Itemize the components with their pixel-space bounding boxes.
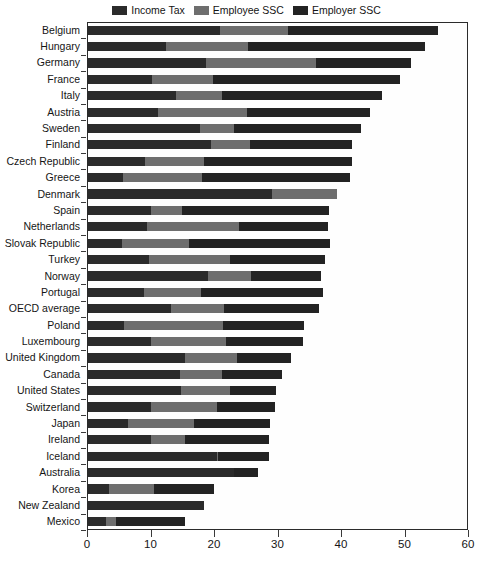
bar-segment[interactable] [87, 124, 200, 133]
bar-segment[interactable] [87, 337, 151, 346]
bar-segment[interactable] [87, 386, 181, 395]
stacked-bar[interactable] [87, 222, 328, 231]
bar-segment[interactable] [123, 173, 202, 182]
stacked-bar[interactable] [87, 484, 214, 493]
bar-segment[interactable] [211, 140, 250, 149]
bar-segment[interactable] [180, 370, 222, 379]
bar-segment[interactable] [316, 58, 411, 67]
bar-segment[interactable] [176, 91, 222, 100]
bar-segment[interactable] [87, 140, 211, 149]
bar-segment[interactable] [206, 58, 316, 67]
bar-segment[interactable] [87, 452, 217, 461]
bar-segment[interactable] [152, 75, 213, 84]
stacked-bar[interactable] [87, 452, 269, 461]
bar-segment[interactable] [124, 321, 222, 330]
bar-segment[interactable] [250, 140, 352, 149]
bar-segment[interactable] [87, 189, 272, 198]
stacked-bar[interactable] [87, 321, 304, 330]
bar-segment[interactable] [87, 468, 234, 477]
bar-segment[interactable] [166, 42, 247, 51]
bar-segment[interactable] [200, 124, 234, 133]
stacked-bar[interactable] [87, 288, 323, 297]
bar-segment[interactable] [181, 386, 230, 395]
bar-segment[interactable] [202, 173, 350, 182]
bar-segment[interactable] [237, 353, 291, 362]
bar-segment[interactable] [220, 26, 288, 35]
bar-segment[interactable] [87, 222, 147, 231]
stacked-bar[interactable] [87, 517, 185, 526]
bar-segment[interactable] [87, 75, 152, 84]
bar-segment[interactable] [87, 517, 106, 526]
bar-segment[interactable] [217, 402, 275, 411]
bar-segment[interactable] [189, 239, 329, 248]
bar-segment[interactable] [87, 435, 151, 444]
bar-segment[interactable] [234, 124, 361, 133]
stacked-bar[interactable] [87, 337, 303, 346]
bar-segment[interactable] [222, 370, 282, 379]
stacked-bar[interactable] [87, 435, 269, 444]
bar-segment[interactable] [218, 452, 269, 461]
bar-segment[interactable] [224, 304, 319, 313]
bar-segment[interactable] [151, 206, 182, 215]
bar-segment[interactable] [154, 484, 214, 493]
bar-segment[interactable] [87, 58, 206, 67]
stacked-bar[interactable] [87, 468, 258, 477]
bar-segment[interactable] [87, 239, 122, 248]
bar-segment[interactable] [230, 255, 325, 264]
bar-segment[interactable] [144, 288, 201, 297]
stacked-bar[interactable] [87, 419, 270, 428]
bar-segment[interactable] [251, 271, 321, 280]
bar-segment[interactable] [87, 108, 158, 117]
stacked-bar[interactable] [87, 386, 276, 395]
stacked-bar[interactable] [87, 189, 337, 198]
bar-segment[interactable] [87, 484, 109, 493]
stacked-bar[interactable] [87, 239, 330, 248]
stacked-bar[interactable] [87, 353, 291, 362]
stacked-bar[interactable] [87, 75, 400, 84]
bar-segment[interactable] [87, 157, 145, 166]
bar-segment[interactable] [223, 321, 304, 330]
bar-segment[interactable] [213, 75, 400, 84]
stacked-bar[interactable] [87, 402, 275, 411]
stacked-bar[interactable] [87, 91, 382, 100]
bar-segment[interactable] [109, 484, 153, 493]
bar-segment[interactable] [182, 206, 329, 215]
bar-segment[interactable] [87, 353, 185, 362]
bar-segment[interactable] [226, 337, 303, 346]
stacked-bar[interactable] [87, 370, 282, 379]
bar-segment[interactable] [149, 255, 230, 264]
bar-segment[interactable] [272, 189, 337, 198]
bar-segment[interactable] [145, 157, 204, 166]
stacked-bar[interactable] [87, 42, 425, 51]
bar-segment[interactable] [234, 468, 258, 477]
bar-segment[interactable] [87, 255, 149, 264]
bar-segment[interactable] [194, 419, 270, 428]
bar-segment[interactable] [87, 419, 128, 428]
bar-segment[interactable] [248, 42, 425, 51]
bar-segment[interactable] [239, 222, 328, 231]
bar-segment[interactable] [87, 402, 151, 411]
bar-segment[interactable] [87, 91, 176, 100]
bar-segment[interactable] [87, 42, 166, 51]
bar-segment[interactable] [87, 173, 123, 182]
bar-segment[interactable] [151, 435, 186, 444]
bar-segment[interactable] [147, 222, 239, 231]
bar-segment[interactable] [87, 304, 171, 313]
bar-segment[interactable] [204, 157, 353, 166]
bar-segment[interactable] [288, 26, 438, 35]
bar-segment[interactable] [87, 206, 151, 215]
bar-segment[interactable] [122, 239, 189, 248]
bar-segment[interactable] [171, 304, 224, 313]
stacked-bar[interactable] [87, 501, 204, 510]
stacked-bar[interactable] [87, 304, 319, 313]
stacked-bar[interactable] [87, 271, 321, 280]
bar-segment[interactable] [128, 419, 194, 428]
bar-segment[interactable] [208, 271, 252, 280]
bar-segment[interactable] [247, 108, 370, 117]
bar-segment[interactable] [87, 271, 208, 280]
bar-segment[interactable] [222, 91, 383, 100]
stacked-bar[interactable] [87, 58, 411, 67]
bar-segment[interactable] [185, 353, 238, 362]
bar-segment[interactable] [151, 337, 226, 346]
bar-segment[interactable] [158, 108, 247, 117]
